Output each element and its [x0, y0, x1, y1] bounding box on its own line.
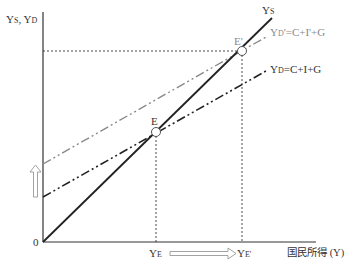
origin-label: 0: [33, 237, 39, 248]
ys-label-sub: S: [270, 7, 274, 16]
ye-prime-tick-label: YE': [237, 248, 251, 259]
y-axis-label: YS, YD: [6, 14, 37, 25]
point-e: [152, 128, 161, 137]
point-e-prime: [238, 47, 247, 56]
y-axis-label-ys-main: Y: [6, 13, 14, 25]
ye-sub: E: [157, 250, 162, 259]
y-axis-label-yd-sub: D: [31, 16, 37, 25]
yd-line-label: YD=C+I+G: [270, 64, 321, 75]
yd-prime-label-main: Y: [270, 26, 278, 38]
ys-label-main: Y: [262, 4, 270, 16]
ye-prime-main: Y: [237, 247, 245, 259]
yd-prime-label-rest: '=C+I'+G: [284, 26, 326, 38]
point-e-label: E: [151, 116, 158, 127]
point-e-prime-label: E': [234, 36, 243, 47]
yd-label-rest: =C+I+G: [284, 63, 322, 75]
ys-line-label: YS: [262, 5, 274, 16]
shift-right-arrow-icon: [170, 248, 236, 259]
yd-label-main: Y: [270, 63, 278, 75]
x-axis-label: 国民所得 (Y): [287, 248, 344, 259]
ye-main: Y: [149, 247, 157, 259]
ye-tick-label: YE: [149, 248, 162, 259]
shift-up-arrow-icon: [30, 165, 41, 197]
ye-prime-sub: E': [245, 250, 251, 259]
diagram-canvas: [0, 0, 355, 268]
yd-prime-line-label: YD'=C+I'+G: [270, 27, 325, 38]
